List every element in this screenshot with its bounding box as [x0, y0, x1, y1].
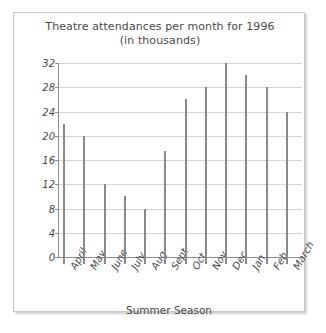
x-tick-mark	[104, 257, 106, 264]
y-tick-mark	[55, 209, 59, 210]
plot-area: 048121620242832AprilMayJuneJulyAugSeptOc…	[59, 63, 302, 257]
gridline	[59, 63, 302, 64]
x-tick-mark	[225, 257, 227, 264]
bar	[83, 136, 85, 257]
x-axis-title-text: Summer Season	[108, 304, 212, 316]
bar	[124, 196, 126, 257]
y-tick-mark	[55, 233, 59, 234]
x-tick-mark	[124, 257, 126, 264]
x-tick-mark	[144, 257, 146, 264]
y-tick-label: 12	[42, 179, 55, 190]
y-tick-label: 16	[42, 155, 55, 166]
y-tick-mark	[55, 136, 59, 137]
x-tick-mark	[185, 257, 187, 264]
chart-frame: Theatre attendances per month for 1996 (…	[13, 12, 305, 312]
x-tick-mark	[245, 257, 247, 264]
y-tick-label: 20	[42, 130, 55, 141]
bar	[286, 112, 288, 258]
y-tick-label: 32	[42, 58, 55, 69]
y-tick-label: 8	[49, 203, 55, 214]
bar	[185, 99, 187, 257]
chart-figure: Theatre attendances per month for 1996 (…	[0, 0, 326, 333]
y-tick-mark	[55, 63, 59, 64]
y-tick-label: 24	[42, 106, 55, 117]
chart-subtitle: (in thousands)	[14, 34, 306, 48]
x-axis-title: Summer Season	[14, 304, 306, 316]
y-tick-mark	[55, 160, 59, 161]
x-tick-mark	[286, 257, 288, 264]
x-tick-mark	[266, 257, 268, 264]
x-tick-mark	[164, 257, 166, 264]
x-tick-mark	[83, 257, 85, 264]
x-tick-label: June	[109, 247, 129, 271]
y-tick-label: 4	[49, 227, 55, 238]
bar	[164, 151, 166, 257]
bar	[144, 209, 146, 258]
bar	[104, 184, 106, 257]
chart-title-block: Theatre attendances per month for 1996 (…	[14, 20, 306, 48]
bar	[245, 75, 247, 257]
x-tick-label: Jan	[250, 253, 267, 272]
bar	[225, 63, 227, 257]
y-tick-mark	[55, 184, 59, 185]
chart-title: Theatre attendances per month for 1996	[14, 20, 306, 34]
y-tick-label: 0	[49, 252, 55, 263]
y-tick-label: 28	[42, 82, 55, 93]
y-tick-mark	[55, 87, 59, 88]
x-tick-label: March	[291, 239, 316, 271]
x-tick-mark	[205, 257, 207, 264]
bar	[63, 124, 65, 257]
bar	[266, 87, 268, 257]
y-tick-mark	[55, 112, 59, 113]
bar	[205, 87, 207, 257]
x-tick-mark	[63, 257, 65, 264]
y-tick-mark	[55, 257, 59, 258]
x-tick-label: April	[68, 246, 89, 271]
